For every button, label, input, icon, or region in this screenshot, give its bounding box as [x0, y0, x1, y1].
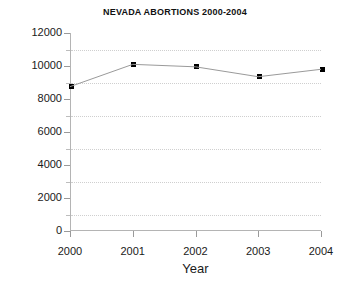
y-axis-minor-tick [66, 83, 70, 84]
chart-title: NEVADA ABORTIONS 2000-2004 [0, 7, 350, 17]
y-axis-minor-tick [66, 215, 70, 216]
y-axis-tick [64, 99, 70, 100]
y-axis-tick-label: 10000 [6, 60, 62, 71]
y-axis-tick [64, 66, 70, 67]
x-axis-tick-label: 2003 [228, 245, 288, 257]
x-axis-tick [321, 231, 322, 237]
x-axis-tick-label: 2002 [166, 245, 226, 257]
gridline [71, 182, 321, 183]
y-axis-tick [64, 165, 70, 166]
y-axis-tick-label: 12000 [6, 27, 62, 38]
y-axis-minor-tick [66, 116, 70, 117]
gridline [71, 83, 321, 84]
chart-container: NEVADA ABORTIONS 2000-2004 Year 02000400… [0, 0, 350, 286]
data-point-marker [320, 67, 325, 72]
y-axis-minor-tick [66, 149, 70, 150]
y-axis-tick-label: 8000 [6, 93, 62, 104]
y-axis-tick [64, 33, 70, 34]
gridline [71, 50, 321, 51]
y-axis-tick [64, 132, 70, 133]
x-axis-tick [258, 231, 259, 237]
y-axis-tick-label: 0 [6, 225, 62, 236]
data-point-marker [69, 84, 74, 89]
y-axis-minor-tick [66, 182, 70, 183]
gridline [71, 116, 321, 117]
plot-area [70, 33, 321, 231]
x-axis-tick-label: 2004 [291, 245, 350, 257]
x-axis-tick-label: 2000 [40, 245, 100, 257]
x-axis-tick [70, 231, 71, 237]
y-axis-tick-label: 4000 [6, 159, 62, 170]
data-point-marker [194, 64, 199, 69]
y-axis-tick-label: 6000 [6, 126, 62, 137]
x-axis-tick-label: 2001 [103, 245, 163, 257]
x-axis-tick [133, 231, 134, 237]
gridline [71, 149, 321, 150]
gridline [71, 215, 321, 216]
y-axis-tick-label: 2000 [6, 192, 62, 203]
x-axis-title: Year [70, 261, 321, 276]
data-point-marker [257, 74, 262, 79]
y-axis-minor-tick [66, 50, 70, 51]
data-point-marker [131, 62, 136, 67]
y-axis-tick [64, 198, 70, 199]
x-axis-tick [196, 231, 197, 237]
